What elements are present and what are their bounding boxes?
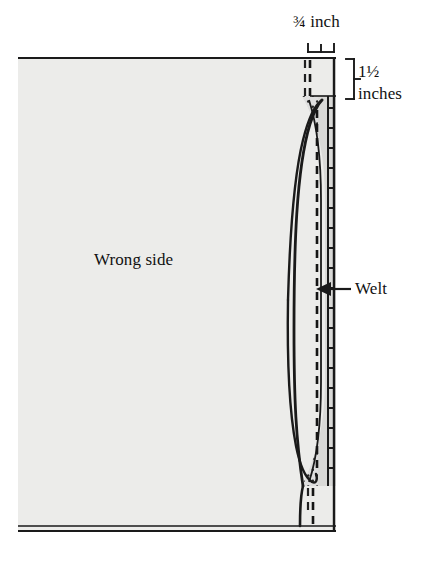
top-bracket bbox=[308, 44, 334, 52]
welt-label: Welt bbox=[355, 279, 387, 298]
side-measurement-label-unit: inches bbox=[358, 84, 402, 103]
top-measurement-label: ¾ inch bbox=[293, 12, 340, 31]
diagram-canvas: ¾ inch 1½ inches Wrong side Welt bbox=[0, 0, 443, 569]
wrong-side-label: Wrong side bbox=[94, 250, 173, 269]
side-measurement-label-value: 1½ bbox=[358, 62, 379, 81]
